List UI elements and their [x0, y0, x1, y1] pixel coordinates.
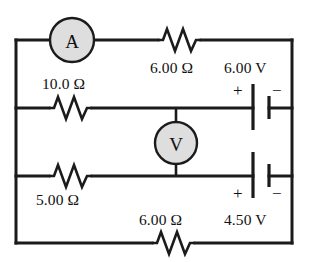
lower-battery-minus-sign: −	[272, 185, 282, 202]
resistor-10-ohm-label: 10.0 Ω	[42, 76, 85, 92]
voltmeter-label: V	[169, 134, 183, 155]
circuit-diagram: A V 6.00 Ω 6.00 V 10.0 Ω + − + − 5.00 Ω	[0, 0, 314, 262]
upper-battery-minus-sign: −	[272, 82, 282, 99]
resistor-top-6-ohm-label: 6.00 Ω	[150, 60, 193, 76]
upper-battery-voltage-label: 6.00 V	[224, 60, 267, 76]
resistor-bottom-6-ohm-symbol	[152, 232, 195, 254]
resistor-5-ohm-symbol	[49, 165, 92, 187]
lower-battery-plus-sign: +	[233, 185, 243, 202]
lower-battery-voltage-label: 4.50 V	[224, 212, 267, 228]
resistor-top-6-ohm-symbol	[158, 29, 201, 51]
upper-battery-plus-sign: +	[233, 82, 243, 99]
ammeter-label: A	[65, 31, 79, 52]
resistor-bottom-6-ohm-label: 6.00 Ω	[139, 212, 182, 228]
resistor-5-ohm-label: 5.00 Ω	[36, 192, 79, 208]
resistor-10-ohm-symbol	[49, 97, 92, 119]
